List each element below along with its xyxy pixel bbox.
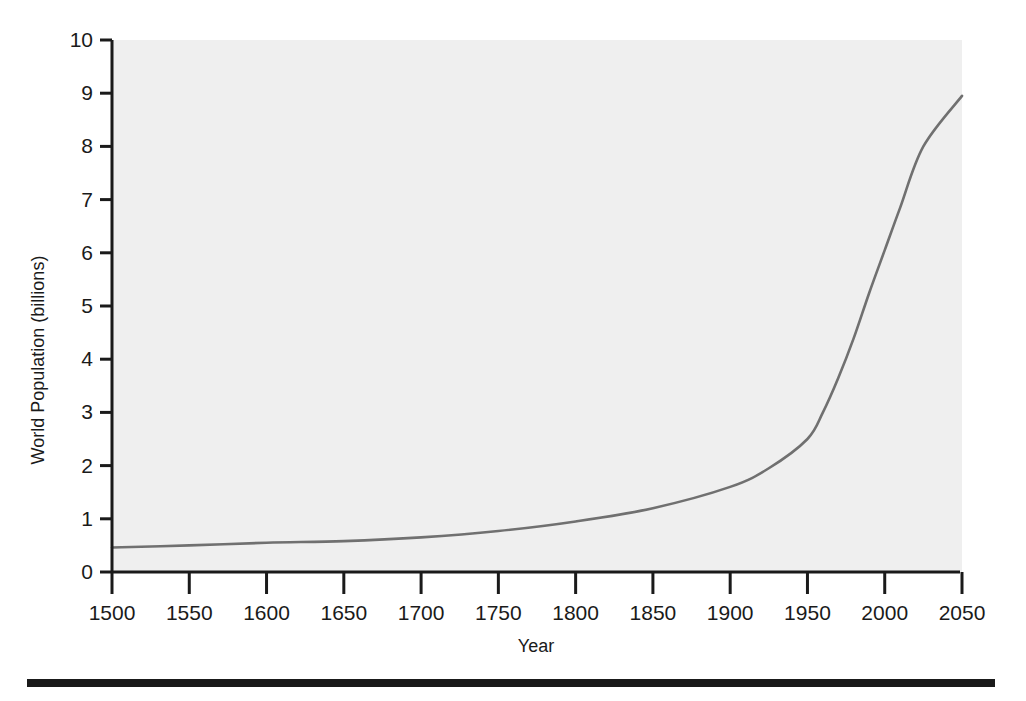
- x-axis-title: Year: [518, 636, 554, 656]
- y-axis-tick-label: 4: [81, 347, 93, 370]
- x-axis-tick-label: 1800: [552, 601, 599, 624]
- plot-area-background: [112, 40, 962, 572]
- y-axis-tick-label: 0: [81, 560, 93, 583]
- x-axis-tick-label: 1550: [166, 601, 213, 624]
- x-axis-tick-label: 1750: [475, 601, 522, 624]
- y-axis-tick-label: 3: [81, 400, 93, 423]
- x-axis-tick-label: 2000: [861, 601, 908, 624]
- y-axis-tick-label: 10: [70, 28, 93, 51]
- x-axis-ticks: [112, 572, 962, 594]
- y-axis-tick-label: 5: [81, 294, 93, 317]
- x-axis-tick-label: 1500: [89, 601, 136, 624]
- y-axis-tick-label: 7: [81, 188, 93, 211]
- y-axis-tick-label: 2: [81, 454, 93, 477]
- x-axis-tick-label: 1850: [630, 601, 677, 624]
- x-axis-tick-label: 1700: [398, 601, 445, 624]
- y-axis-tick-label: 9: [81, 81, 93, 104]
- y-axis-tick-label: 1: [81, 507, 93, 530]
- horizontal-rule: [27, 679, 995, 687]
- population-chart-figure: 012345678910 150015501600165017001750180…: [0, 0, 1026, 701]
- x-axis-tick-labels: 1500155016001650170017501800185019001950…: [89, 601, 986, 624]
- y-axis-tick-labels: 012345678910: [70, 28, 94, 583]
- y-axis-ticks: [100, 40, 112, 572]
- x-axis-tick-label: 1650: [320, 601, 367, 624]
- y-axis-tick-label: 6: [81, 241, 93, 264]
- y-axis-tick-label: 8: [81, 134, 93, 157]
- x-axis-tick-label: 1900: [707, 601, 754, 624]
- x-axis-tick-label: 1600: [243, 601, 290, 624]
- x-axis-tick-label: 1950: [784, 601, 831, 624]
- world-population-line-chart: 012345678910 150015501600165017001750180…: [0, 0, 1026, 701]
- x-axis-tick-label: 2050: [939, 601, 986, 624]
- y-axis-title: World Population (billions): [28, 256, 48, 465]
